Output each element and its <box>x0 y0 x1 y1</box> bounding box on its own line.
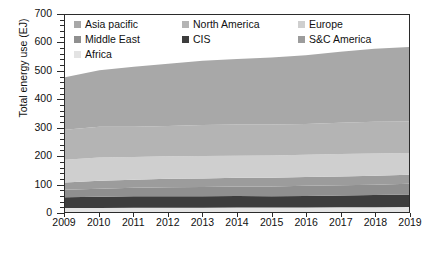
y-tick-mark <box>57 99 64 100</box>
y-tick-label: 400 <box>18 93 52 103</box>
legend-label: Africa <box>85 49 112 60</box>
legend-item-asia-pacific[interactable]: Asia pacific <box>74 18 182 31</box>
legend-label: Middle East <box>85 34 140 45</box>
y-tick-mark <box>57 185 64 186</box>
area-band-cis <box>65 195 409 209</box>
chart-figure: Total energy use (EJ) 010020030040050060… <box>0 0 424 255</box>
legend-swatch-icon <box>74 51 81 58</box>
legend-swatch-icon <box>74 36 81 43</box>
legend-swatch-icon <box>298 21 305 28</box>
legend-label: Asia pacific <box>85 19 138 30</box>
y-tick-label: 100 <box>18 179 52 189</box>
legend-item-africa[interactable]: Africa <box>74 48 182 61</box>
legend-item-middle-east[interactable]: Middle East <box>74 33 182 46</box>
legend-label: North America <box>193 19 260 30</box>
y-tick-label: 200 <box>18 150 52 160</box>
legend-item-cis[interactable]: CIS <box>182 33 298 46</box>
legend-item-s-c-america[interactable]: S&C America <box>298 33 384 46</box>
legend-swatch-icon <box>182 36 189 43</box>
legend-label: CIS <box>193 34 211 45</box>
legend-item-europe[interactable]: Europe <box>298 18 384 31</box>
y-tick-mark <box>57 14 64 15</box>
y-tick-label: 500 <box>18 65 52 75</box>
y-tick-mark <box>57 156 64 157</box>
legend-swatch-icon <box>298 36 305 43</box>
y-tick-label: 300 <box>18 122 52 132</box>
y-tick-label: 700 <box>18 8 52 18</box>
legend-item-north-america[interactable]: North America <box>182 18 298 31</box>
chart-legend: Asia pacificNorth AmericaEuropeMiddle Ea… <box>74 18 384 63</box>
y-tick-mark <box>57 71 64 72</box>
x-tick-label: 2019 <box>390 216 424 228</box>
y-tick-mark <box>57 213 64 214</box>
legend-swatch-icon <box>182 21 189 28</box>
y-tick-label: 600 <box>18 36 52 46</box>
y-tick-mark <box>57 128 64 129</box>
y-tick-mark <box>57 42 64 43</box>
legend-label: S&C America <box>309 34 371 45</box>
legend-label: Europe <box>309 19 343 30</box>
legend-swatch-icon <box>74 21 81 28</box>
